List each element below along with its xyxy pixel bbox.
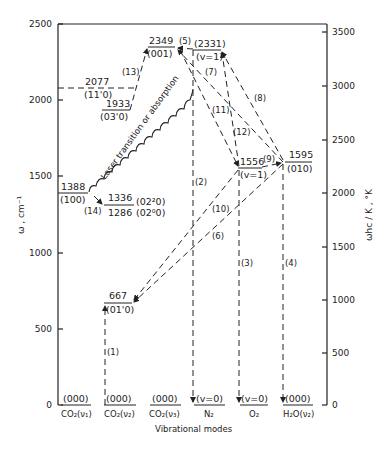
left-axis-ticks: 0 500 1000 1500 2000 2500 <box>29 19 52 410</box>
svg-text:2000: 2000 <box>29 95 52 105</box>
svg-text:CO₂(ν₁): CO₂(ν₁) <box>61 409 92 419</box>
svg-text:(v=0): (v=0) <box>241 393 268 404</box>
svg-text:(7): (7) <box>205 67 217 77</box>
svg-text:2077: 2077 <box>85 76 109 87</box>
svg-text:(8): (8) <box>254 93 266 103</box>
svg-text:1286: 1286 <box>108 207 132 218</box>
svg-text:(001): (001) <box>147 48 173 59</box>
svg-text:1500: 1500 <box>332 242 355 252</box>
svg-text:(6): (6) <box>212 231 224 241</box>
svg-text:1595: 1595 <box>289 149 313 160</box>
svg-text:(9): (9) <box>263 154 275 164</box>
svg-text:(03'0): (03'0) <box>100 111 128 122</box>
svg-text:1500: 1500 <box>29 171 52 181</box>
x-axis-label: Vibrational modes <box>155 424 233 434</box>
svg-text:1336: 1336 <box>108 192 132 203</box>
svg-text:(14): (14) <box>84 206 101 216</box>
svg-text:3000: 3000 <box>332 81 355 91</box>
svg-text:0: 0 <box>332 400 338 410</box>
svg-text:(2): (2) <box>195 177 207 187</box>
svg-text:(10): (10) <box>212 204 229 214</box>
svg-text:O₂: O₂ <box>249 409 259 419</box>
svg-text:1000: 1000 <box>29 248 52 258</box>
svg-text:2500: 2500 <box>332 135 355 145</box>
svg-text:(12): (12) <box>233 127 250 137</box>
svg-text:3500: 3500 <box>332 27 355 37</box>
svg-text:(v=0): (v=0) <box>196 393 223 404</box>
svg-text:(13): (13) <box>122 67 139 77</box>
svg-text:(5): (5) <box>179 36 191 46</box>
svg-text:2000: 2000 <box>332 188 355 198</box>
svg-text:2349: 2349 <box>149 35 173 46</box>
energy-level-diagram: 0 500 1000 1500 2000 2500 ω , cm⁻¹ 0 500… <box>0 0 386 449</box>
right-axis-ticks: 0 500 1000 1500 2000 2500 3000 3500 <box>332 27 355 410</box>
svg-text:(000): (000) <box>63 393 89 404</box>
svg-text:(1): (1) <box>107 347 119 357</box>
svg-text:(01'0): (01'0) <box>106 304 134 315</box>
svg-text:2500: 2500 <box>29 19 52 29</box>
svg-text:CO₂(ν₂): CO₂(ν₂) <box>104 409 135 419</box>
svg-text:N₂: N₂ <box>204 409 214 419</box>
svg-text:CO₂(ν₃): CO₂(ν₃) <box>149 409 180 419</box>
right-axis-label: ωhc / K , °K <box>364 188 374 241</box>
svg-text:(3): (3) <box>241 258 253 268</box>
svg-text:0: 0 <box>46 400 52 410</box>
svg-text:(100): (100) <box>60 194 86 205</box>
svg-text:(4): (4) <box>285 258 297 268</box>
svg-text:(02²0): (02²0) <box>136 196 165 207</box>
svg-text:1556: 1556 <box>240 156 264 167</box>
svg-text:500: 500 <box>332 348 349 358</box>
svg-text:(010): (010) <box>287 163 313 174</box>
svg-text:1388: 1388 <box>61 181 85 192</box>
svg-text:(v=1): (v=1) <box>196 51 223 62</box>
svg-text:1000: 1000 <box>332 295 355 305</box>
left-axis-label: ω , cm⁻¹ <box>16 196 26 235</box>
svg-text:667: 667 <box>109 290 127 301</box>
svg-text:500: 500 <box>35 324 52 334</box>
svg-text:(11): (11) <box>212 105 229 115</box>
svg-text:(000): (000) <box>285 393 311 404</box>
ground-levels: (000) CO₂(ν₁) (000) CO₂(ν₂) (000) CO₂(ν₃… <box>61 393 314 419</box>
svg-text:(000): (000) <box>152 393 178 404</box>
svg-text:(v=1): (v=1) <box>240 169 267 180</box>
excited-levels: 2349 (001) (2331) (v=1) 2077 (11'0) 1933… <box>58 35 313 315</box>
svg-text:(2331): (2331) <box>194 38 226 49</box>
svg-text:(000): (000) <box>106 393 132 404</box>
svg-text:1933: 1933 <box>106 98 130 109</box>
svg-text:(02⁰0): (02⁰0) <box>136 207 165 218</box>
svg-text:H₂O(ν₂): H₂O(ν₂) <box>283 409 314 419</box>
